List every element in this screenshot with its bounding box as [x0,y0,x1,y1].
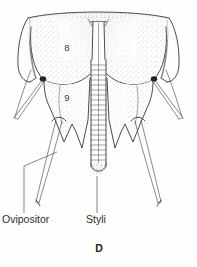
stylus-lower-left [36,120,62,206]
segment-9-label: 9 [64,92,69,103]
stylus-lower-right [135,120,161,206]
tergite-9-left [42,76,92,150]
anatomical-illustration: 8 9 Ovipositor Styli D [0,0,197,267]
shaft-annulations [91,65,106,165]
panel-letter: D [95,242,103,254]
ovipositor-label: Ovipositor [2,213,50,225]
segment-8-label: 8 [64,42,69,53]
figure-panel: 8 9 Ovipositor Styli D [0,0,197,267]
tergite-9-right [105,76,155,150]
styli-label: Styli [86,213,106,225]
